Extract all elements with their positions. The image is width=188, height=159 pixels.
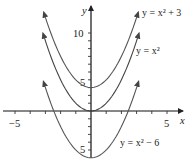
x-axis: −5 5 x	[3, 111, 185, 129]
y-tick-label-10: 10	[73, 28, 84, 39]
x-axis-label: x	[179, 115, 185, 126]
x-tick-label-neg5: −5	[9, 118, 20, 129]
y-axis-label: y	[81, 5, 87, 16]
x-tick-label-5: 5	[164, 118, 169, 129]
y-tick-label-neg5: 5	[80, 144, 85, 155]
label-y-x2-minus-6: y = x² − 6	[120, 137, 159, 148]
label-y-x2-plus-3: y = x² + 3	[142, 7, 181, 18]
y-axis: 10 5 5 y	[73, 5, 91, 158]
label-y-x2: y = x²	[136, 45, 160, 56]
parabola-chart: −5 5 x 10 5 5 y y = x² + 3 y = x² y = x²…	[0, 0, 188, 159]
